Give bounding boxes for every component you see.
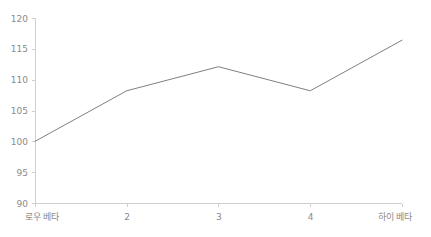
y-tick-label-3: 105 [11,106,28,116]
y-tick-label-0: 90 [17,199,29,209]
y-tick-label-6: 120 [11,14,28,24]
y-tick-label-1: 95 [17,168,28,178]
x-axis-tick-labels: 로우 베타 2 3 4 하이 베타 [25,212,414,222]
x-tick-label-3: 4 [308,212,314,222]
y-tick-label-4: 110 [11,75,28,85]
series-line-0 [35,40,402,141]
y-axis-ticks [32,19,36,204]
x-tick-label-1: 2 [124,212,130,222]
line-chart: 120 115 110 105 100 95 90 로우 베타 2 3 [0,0,431,237]
x-tick-label-2: 3 [216,212,222,222]
y-axis-tick-labels: 120 115 110 105 100 95 90 [11,14,28,209]
x-axis: 로우 베타 2 3 4 하이 베타 [25,204,414,223]
y-axis: 120 115 110 105 100 95 90 [11,14,36,209]
y-tick-label-2: 100 [11,137,28,147]
plot-area [35,40,402,141]
x-tick-label-0: 로우 베타 [25,212,61,222]
chart-canvas: 120 115 110 105 100 95 90 로우 베타 2 3 [0,0,431,237]
y-tick-label-5: 115 [11,44,28,54]
x-tick-label-4: 하이 베타 [378,212,414,222]
x-axis-ticks [36,204,403,208]
